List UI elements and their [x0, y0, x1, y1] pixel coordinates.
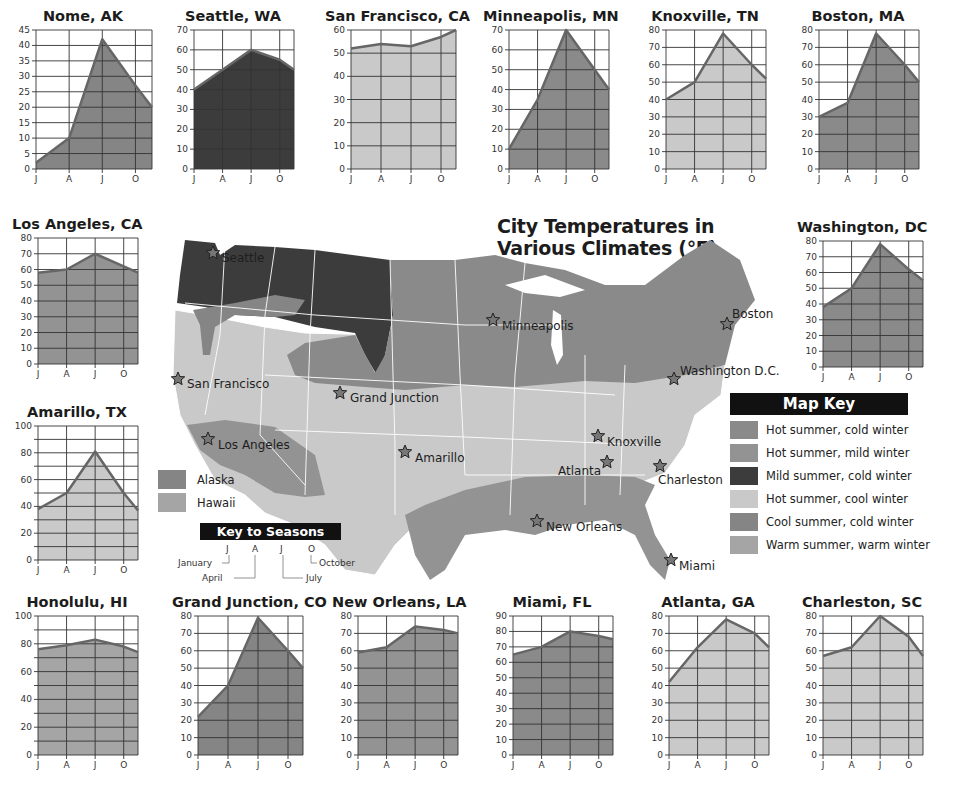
- y-tick-label: 40: [652, 681, 664, 691]
- map-key-label: Cool summer, cold winter: [766, 515, 913, 529]
- y-tick-label: 80: [341, 611, 353, 621]
- x-tick-label: J: [413, 760, 417, 770]
- city-label: Boston: [732, 307, 773, 321]
- y-tick-label: 100: [15, 421, 32, 431]
- y-tick-label: 50: [652, 663, 664, 673]
- chart-los-angeles-ca: 01020304050607080JAJOLos Angeles, CA: [12, 216, 142, 378]
- y-tick-label: 80: [21, 448, 33, 458]
- y-tick-label: 70: [806, 252, 818, 262]
- y-tick-label: 40: [806, 681, 818, 691]
- chart-minneapolis-mn: 010203040506070JAJOMinneapolis, MN: [483, 8, 613, 183]
- hawaii-swatch: [158, 493, 186, 512]
- map-key-label: Mild summer, cold winter: [766, 469, 912, 483]
- y-tick-label: 80: [806, 236, 818, 246]
- y-tick-label: 30: [806, 315, 818, 325]
- area-fill: [509, 30, 609, 169]
- y-tick-label: 70: [802, 42, 814, 52]
- x-tick-label: A: [378, 174, 385, 184]
- y-tick-label: 80: [181, 611, 193, 621]
- y-tick-label: 10: [334, 141, 346, 151]
- y-tick-label: 10: [496, 735, 508, 745]
- chart-title: Seattle, WA: [168, 8, 298, 24]
- y-tick-label: 20: [21, 528, 33, 538]
- y-tick-label: 30: [806, 698, 818, 708]
- y-tick-label: 30: [181, 698, 193, 708]
- y-tick-label: 10: [802, 147, 814, 157]
- x-tick-label: J: [724, 760, 728, 770]
- map-key-item: Warm summer, warm winter: [730, 533, 908, 556]
- y-tick-label: 0: [497, 164, 503, 174]
- map-key-item: Hot summer, mild winter: [730, 441, 908, 464]
- y-tick-label: 0: [807, 164, 813, 174]
- chart-title: Knoxville, TN: [640, 8, 770, 24]
- y-tick-label: 50: [341, 663, 353, 673]
- x-tick-label: J: [93, 369, 97, 379]
- y-tick-label: 20: [21, 722, 33, 732]
- x-tick-label: A: [534, 174, 541, 184]
- map-key-item: Hot summer, cool winter: [730, 487, 908, 510]
- y-tick-label: 10: [649, 147, 661, 157]
- y-tick-label: 10: [806, 346, 818, 356]
- x-tick-label: A: [848, 760, 855, 770]
- map-key-swatch: [730, 490, 758, 508]
- y-tick-label: 20: [334, 118, 346, 128]
- x-tick-label: J: [564, 174, 568, 184]
- y-tick-label: 40: [806, 299, 818, 309]
- y-tick-label: 0: [26, 359, 32, 369]
- map-key-swatch: [730, 421, 758, 439]
- x-tick-label: O: [437, 174, 444, 184]
- y-tick-label: 70: [806, 628, 818, 638]
- season-name-july: July: [305, 573, 323, 583]
- x-tick-label: O: [901, 174, 908, 184]
- x-tick-label: J: [93, 565, 97, 575]
- area-fill: [38, 640, 138, 755]
- x-tick-label: J: [356, 760, 360, 770]
- city-label: Minneapolis: [502, 319, 574, 333]
- y-tick-label: 50: [21, 280, 33, 290]
- chart-title: Atlanta, GA: [643, 594, 773, 610]
- season-letter-o: O: [308, 544, 315, 554]
- x-tick-label: O: [748, 174, 755, 184]
- x-tick-label: J: [256, 760, 260, 770]
- x-tick-label: O: [905, 372, 912, 382]
- y-tick-label: 80: [802, 25, 814, 35]
- y-tick-label: 40: [19, 40, 31, 50]
- y-tick-label: 20: [496, 719, 508, 729]
- area-fill: [666, 33, 766, 169]
- y-tick-label: 70: [181, 628, 193, 638]
- city-label: Atlanta: [558, 464, 601, 478]
- y-tick-label: 40: [181, 681, 193, 691]
- x-tick-label: O: [120, 760, 127, 770]
- y-tick-label: 60: [652, 646, 664, 656]
- y-tick-label: 40: [802, 95, 814, 105]
- y-tick-label: 30: [802, 112, 814, 122]
- city-label: Charleston: [658, 473, 723, 487]
- map-key-label: Hot summer, mild winter: [766, 446, 909, 460]
- y-tick-label: 80: [21, 639, 33, 649]
- y-tick-label: 30: [21, 312, 33, 322]
- y-tick-label: 80: [652, 611, 664, 621]
- y-tick-label: 30: [177, 104, 189, 114]
- chart-title: Grand Junction, CO: [172, 594, 307, 610]
- x-tick-label: O: [132, 174, 139, 184]
- chart-title: Boston, MA: [793, 8, 923, 24]
- season-letter-a: A: [252, 544, 259, 554]
- y-tick-label: 90: [496, 611, 508, 621]
- chart-nome-ak: 051015202530354045JAJONome, AK: [10, 8, 156, 183]
- y-tick-label: 40: [341, 681, 353, 691]
- map-key-swatch: [730, 467, 758, 485]
- y-tick-label: 40: [492, 85, 504, 95]
- x-tick-label: J: [874, 174, 878, 184]
- y-tick-label: 70: [177, 25, 189, 35]
- y-tick-label: 70: [649, 42, 661, 52]
- inset-key-hawaii: Hawaii: [158, 491, 236, 514]
- y-tick-label: 10: [177, 144, 189, 154]
- inset-key-alaska: Alaska: [158, 468, 236, 491]
- x-tick-label: J: [664, 174, 668, 184]
- x-tick-label: A: [225, 760, 232, 770]
- map-key-label: Warm summer, warm winter: [766, 538, 930, 552]
- x-tick-label: A: [848, 372, 855, 382]
- area-fill: [823, 244, 923, 367]
- chart-knoxville-tn: 01020304050607080JAJOKnoxville, TN: [640, 8, 770, 183]
- area-fill: [358, 626, 458, 755]
